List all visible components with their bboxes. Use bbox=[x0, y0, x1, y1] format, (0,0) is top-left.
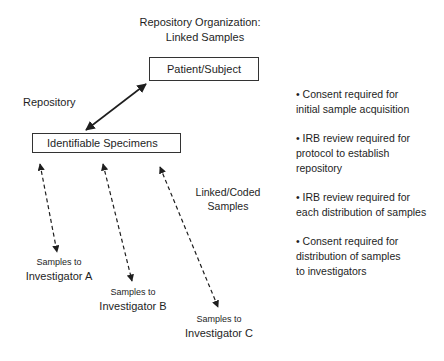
investigator-c-line-2: Investigator C bbox=[179, 326, 259, 340]
requirement-item: • IRB review required for each distribut… bbox=[296, 190, 444, 220]
patient-subject-box: Patient/Subject bbox=[149, 57, 259, 81]
repository-label: Repository bbox=[23, 96, 76, 108]
investigator-a-line-2: Investigator A bbox=[19, 269, 99, 283]
requirement-item: • IRB review required for protocol to es… bbox=[296, 131, 444, 176]
dashed-arrow-investigator-a bbox=[40, 164, 57, 252]
requirement-item: • Consent required for distribution of s… bbox=[296, 234, 444, 279]
linked-coded-samples-label: Linked/Coded Samples bbox=[188, 185, 268, 213]
dashed-arrow-investigator-b bbox=[103, 164, 132, 281]
requirement-line: initial sample acquisition bbox=[296, 102, 444, 117]
requirements-list: • Consent required for initial sample ac… bbox=[296, 87, 444, 293]
investigator-c-line-1: Samples to bbox=[179, 313, 259, 326]
requirement-line: repository bbox=[296, 161, 444, 176]
requirement-line: • Consent required for bbox=[296, 234, 444, 249]
investigator-c-label: Samples to Investigator C bbox=[179, 313, 259, 340]
title-line-1: Repository Organization: bbox=[120, 15, 280, 30]
title-line-2: Linked Samples bbox=[120, 30, 280, 45]
repository-double-arrow bbox=[86, 84, 146, 130]
linked-coded-line-2: Samples bbox=[188, 199, 268, 213]
investigator-a-label: Samples to Investigator A bbox=[19, 256, 99, 283]
investigator-b-line-1: Samples to bbox=[93, 286, 173, 299]
requirement-line: to investigators bbox=[296, 264, 444, 279]
requirement-line: distribution of samples bbox=[296, 249, 444, 264]
linked-coded-line-1: Linked/Coded bbox=[188, 185, 268, 199]
requirement-line: • IRB review required for bbox=[296, 131, 444, 146]
requirement-line: protocol to establish bbox=[296, 146, 444, 161]
investigator-b-label: Samples to Investigator B bbox=[93, 286, 173, 313]
investigator-a-line-1: Samples to bbox=[19, 256, 99, 269]
requirement-line: • IRB review required for bbox=[296, 190, 444, 205]
requirement-line: • Consent required for bbox=[296, 87, 444, 102]
requirement-item: • Consent required for initial sample ac… bbox=[296, 87, 444, 117]
identifiable-specimens-label: Identifiable Specimens bbox=[47, 137, 158, 149]
patient-subject-label: Patient/Subject bbox=[167, 63, 241, 75]
requirement-line: each distribution of samples bbox=[296, 205, 444, 220]
diagram-title: Repository Organization: Linked Samples bbox=[120, 15, 280, 45]
investigator-b-line-2: Investigator B bbox=[93, 299, 173, 313]
identifiable-specimens-box: Identifiable Specimens bbox=[32, 133, 181, 153]
